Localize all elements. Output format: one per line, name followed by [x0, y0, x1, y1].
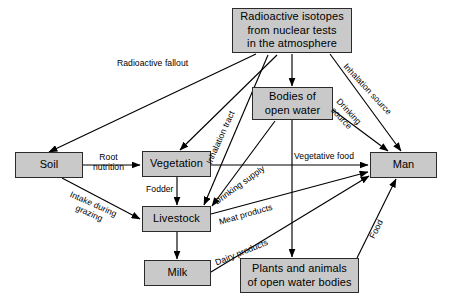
- diagram-canvas: Radioactive isotopes from nuclear tests …: [0, 0, 451, 301]
- node-label: Man: [393, 158, 415, 171]
- node-bodies-of-open-water[interactable]: Bodies of open water: [252, 87, 333, 120]
- node-label: Milk: [168, 266, 188, 279]
- edge-label-fodder: Fodder: [146, 185, 174, 195]
- node-label: Livestock: [153, 212, 200, 225]
- edge-label-vegetative-food: Vegetative food: [294, 152, 354, 162]
- node-plants-and-animals[interactable]: Plants and animals of open water bodies: [240, 258, 359, 293]
- node-man[interactable]: Man: [370, 152, 437, 178]
- node-label: Plants and animals of open water bodies: [247, 262, 351, 289]
- node-radioactive-isotopes[interactable]: Radioactive isotopes from nuclear tests …: [232, 8, 352, 53]
- node-milk[interactable]: Milk: [144, 260, 211, 286]
- node-label: Soil: [40, 158, 59, 171]
- node-soil[interactable]: Soil: [15, 152, 83, 178]
- node-livestock[interactable]: Livestock: [142, 206, 211, 232]
- edge-label-radioactive-fallout: Radioactive fallout: [117, 59, 188, 69]
- node-label: Bodies of open water: [265, 90, 320, 117]
- node-label: Radioactive isotopes from nuclear tests …: [240, 10, 344, 50]
- edge-label-root-nutrition: Root nutrition: [93, 153, 124, 173]
- node-label: Vegetation: [150, 157, 203, 170]
- node-vegetation[interactable]: Vegetation: [142, 151, 211, 177]
